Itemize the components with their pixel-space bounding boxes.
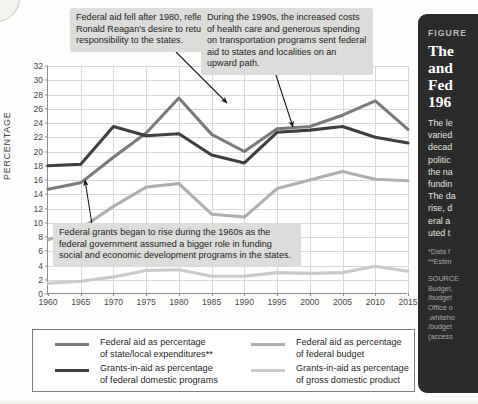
legend-color-swatch	[251, 343, 285, 346]
figure-body-line: The da	[428, 190, 478, 202]
y-axis-label: PERCENTAGE	[2, 112, 12, 180]
figure-title: TheandFed196	[428, 42, 478, 110]
legend-color-swatch	[251, 369, 285, 372]
legend-item-label: Federal aid as percentageof federal budg…	[296, 337, 402, 360]
figure-source-line: Budget,	[428, 284, 478, 294]
x-tick-label: 1980	[169, 298, 188, 307]
x-tick-label: 1995	[268, 298, 287, 307]
figure-source-note: SOURCEBudget,/budgetOffice o.whiteho/bud…	[428, 274, 478, 341]
x-tick-label: 1965	[71, 298, 90, 307]
series-line	[48, 127, 408, 166]
legend-column-left: Federal aid as percentageof state/local …	[55, 339, 235, 391]
figure-body-line: politic	[428, 154, 478, 166]
y-tick-label: 8	[38, 233, 43, 242]
figure-body-line: The le	[428, 117, 478, 129]
chart-legend: Federal aid as percentageof state/local …	[32, 329, 415, 392]
figure-body-line: fundin	[428, 178, 478, 190]
legend-item[interactable]: Grants-in-aid as percentageof gross dome…	[251, 365, 419, 389]
legend-column-right: Federal aid as percentageof federal budg…	[251, 339, 419, 391]
figure-source-line: /budget	[428, 293, 478, 303]
y-tick-label: 32	[33, 62, 43, 71]
figure-body-line: varied	[428, 129, 478, 141]
figure-body-text: The levarieddecadpoliticthe nafundinThe …	[428, 117, 478, 239]
figure-source-line: (access	[428, 332, 478, 342]
x-tick-label: 1960	[38, 298, 57, 307]
figure-source-line: SOURCE	[428, 274, 478, 284]
figure-caption-panel: FIGURE TheandFed196 The levarieddecadpol…	[418, 14, 478, 393]
figure-body-line: uted t	[428, 227, 478, 239]
legend-item[interactable]: Federal aid as percentageof federal budg…	[251, 339, 419, 363]
figure-footnote-line: *Data f	[428, 247, 478, 257]
x-tick-label: 1975	[137, 298, 156, 307]
legend-item-label: Grants-in-aid as percentageof federal do…	[100, 363, 218, 386]
y-tick-label: 28	[33, 90, 43, 99]
x-tick-label: 1990	[235, 298, 254, 307]
y-tick-label: 14	[33, 190, 43, 199]
legend-color-swatch	[55, 343, 89, 346]
figure-page: PERCENTAGE 02468101214161820222426283032…	[0, 0, 478, 404]
figure-source-line: Office o	[428, 303, 478, 313]
figure-title-line: Fed	[428, 76, 478, 93]
annotation-callout-sixties: Federal grants began to rise during the …	[53, 223, 301, 267]
figure-kicker: FIGURE	[428, 28, 478, 38]
series-line	[48, 266, 408, 283]
figure-footnotes: *Data f**Estim	[428, 247, 478, 266]
y-tick-label: 2	[38, 275, 43, 284]
figure-body-line: eral a	[428, 215, 478, 227]
y-tick-label: 20	[33, 147, 43, 156]
figure-title-line: and	[428, 59, 478, 76]
figure-body-line: the na	[428, 166, 478, 178]
x-tick-label: 2015	[398, 298, 417, 307]
legend-item-label: Grants-in-aid as percentageof gross dome…	[296, 363, 409, 386]
legend-item[interactable]: Federal aid as percentageof state/local …	[55, 339, 235, 363]
legend-item[interactable]: Grants-in-aid as percentageof federal do…	[55, 365, 235, 389]
x-tick-label: 1970	[104, 298, 123, 307]
y-tick-label: 10	[33, 218, 43, 227]
figure-title-line: The	[428, 42, 478, 59]
x-tick-label: 2005	[333, 298, 352, 307]
y-tick-label: 4	[38, 261, 43, 270]
x-tick-mark	[408, 293, 409, 296]
line-chart: PERCENTAGE 02468101214161820222426283032…	[0, 0, 420, 404]
annotation-callout-nineties: During the 1990s, the increased costs of…	[201, 8, 373, 75]
figure-footnote-line: **Estim	[428, 257, 478, 267]
x-tick-label: 2000	[300, 298, 319, 307]
y-tick-label: 30	[33, 76, 43, 85]
legend-color-swatch	[55, 369, 89, 372]
y-tick-label: 26	[33, 104, 43, 113]
y-tick-label: 6	[38, 247, 43, 256]
y-tick-label: 24	[33, 119, 43, 128]
figure-body-line: rise, d	[428, 202, 478, 214]
x-tick-label: 2010	[366, 298, 385, 307]
y-tick-label: 18	[33, 161, 43, 170]
y-tick-label: 22	[33, 133, 43, 142]
figure-source-line: .whiteho	[428, 313, 478, 323]
y-tick-label: 16	[33, 176, 43, 185]
legend-item-label: Federal aid as percentageof state/local …	[100, 337, 213, 360]
y-tick-label: 12	[33, 204, 43, 213]
figure-source-line: /budget	[428, 322, 478, 332]
x-tick-label: 1985	[202, 298, 221, 307]
figure-body-line: decad	[428, 141, 478, 153]
figure-title-line: 196	[428, 93, 478, 110]
